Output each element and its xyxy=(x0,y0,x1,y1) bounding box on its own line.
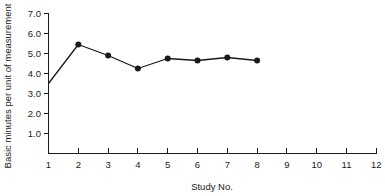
data-point xyxy=(254,58,260,64)
y-tick-label-3: 3.0 xyxy=(28,88,41,99)
data-series-markers xyxy=(75,42,260,72)
x-tick-label-12: 12 xyxy=(371,159,382,170)
y-axis-title: Basic minutes per unit of measurement xyxy=(2,3,13,168)
y-axis-ticks xyxy=(44,14,49,134)
x-tick-label-8: 8 xyxy=(254,159,259,170)
x-tick-label-4: 4 xyxy=(135,159,140,170)
data-point xyxy=(195,58,201,64)
y-tick-label-6: 6.0 xyxy=(28,28,41,39)
chart-canvas: 7.0 6.0 5.0 4.0 3.0 2.0 1.0 1 2 xyxy=(0,0,385,196)
x-axis-title: Study No. xyxy=(191,181,233,192)
y-tick-label-7: 7.0 xyxy=(28,8,41,19)
y-tick-label-2: 2.0 xyxy=(28,108,41,119)
x-tick-label-1: 1 xyxy=(46,159,51,170)
x-axis-ticks xyxy=(49,148,377,154)
data-point xyxy=(224,55,230,61)
data-point xyxy=(165,56,171,62)
data-series-line xyxy=(49,45,258,84)
x-tick-label-5: 5 xyxy=(165,159,170,170)
x-tick-label-10: 10 xyxy=(311,159,322,170)
x-tick-label-2: 2 xyxy=(76,159,81,170)
y-tick-label-5: 5.0 xyxy=(28,48,41,59)
line-chart: 7.0 6.0 5.0 4.0 3.0 2.0 1.0 1 2 xyxy=(0,0,385,196)
y-tick-label-4: 4.0 xyxy=(28,68,41,79)
data-point xyxy=(75,42,81,48)
data-point xyxy=(105,53,111,59)
y-axis-tick-labels: 7.0 6.0 5.0 4.0 3.0 2.0 1.0 xyxy=(28,8,41,139)
x-tick-label-11: 11 xyxy=(342,159,352,170)
data-point xyxy=(135,66,141,72)
x-axis-tick-labels: 1 2 3 4 5 6 7 8 9 10 11 12 xyxy=(46,159,382,170)
x-tick-label-9: 9 xyxy=(284,159,289,170)
x-tick-label-3: 3 xyxy=(105,159,110,170)
y-tick-label-1: 1.0 xyxy=(28,128,41,139)
x-tick-label-6: 6 xyxy=(195,159,200,170)
x-tick-label-7: 7 xyxy=(225,159,230,170)
